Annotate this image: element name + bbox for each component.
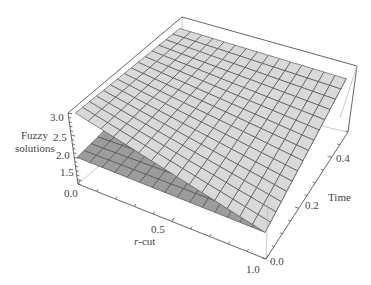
x-tick-0.0: 0.0 [64,188,78,199]
z-tick-3.0: 3.0 [50,112,64,123]
z-axis-label-line2: solutions [15,143,55,154]
x-tick-1.0: 1.0 [246,264,260,275]
z-tick-2.5: 2.5 [53,132,67,143]
y-axis-label: Time [328,192,351,203]
x-axis-label-suffix: -cut [138,235,155,247]
y-tick-0.0: 0.0 [270,256,284,267]
z-tick-2.0: 2.0 [56,150,70,161]
x-tick-0.5: 0.5 [151,224,165,235]
y-tick-0.4: 0.4 [336,153,350,164]
z-tick-1.5: 1.5 [60,167,74,178]
x-axis-label: r-cut [134,236,155,247]
z-axis-label-line1: Fuzzy [21,130,48,141]
back-right-vertical-edge [340,66,357,118]
y-tick-0.2: 0.2 [305,200,319,211]
